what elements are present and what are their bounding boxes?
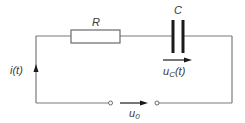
current-label: i(t)	[10, 64, 23, 76]
terminal-right	[155, 101, 159, 105]
rc-circuit-diagram: R C uC(t) i(t) u0	[0, 0, 245, 123]
capacitor-voltage-label: uC(t)	[163, 65, 186, 79]
source-voltage-label: u0	[129, 107, 140, 121]
current-arrow-icon	[34, 64, 39, 72]
resistor-label: R	[92, 16, 100, 28]
capacitor-voltage-arrow-icon	[163, 58, 192, 63]
source-voltage-arrow-icon	[120, 101, 148, 106]
terminal-left	[109, 101, 113, 105]
wires	[36, 36, 232, 103]
resistor	[71, 30, 120, 43]
capacitor-label: C	[174, 4, 182, 16]
